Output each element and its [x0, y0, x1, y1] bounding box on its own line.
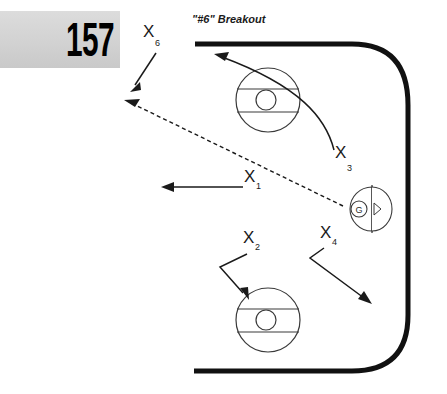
player-x6-letter: X — [143, 22, 154, 41]
player-x1-letter: X — [244, 167, 255, 186]
x4-arrowhead — [358, 291, 372, 304]
pass-arrowhead — [124, 99, 140, 107]
x2-route-line — [220, 254, 247, 293]
player-x4-route — [310, 248, 372, 304]
player-label-x4: X 4 — [320, 223, 337, 247]
player-label-x6: X 6 — [143, 22, 160, 48]
player-x2-route — [220, 254, 249, 300]
faceoff-dot-circle — [256, 310, 276, 330]
pass-line — [131, 103, 343, 206]
player-label-x3: X 3 — [335, 143, 352, 173]
player-x4-subscript: 4 — [332, 237, 337, 247]
player-x2-subscript: 2 — [255, 242, 260, 252]
player-x1-route — [161, 182, 243, 192]
player-label-x2: X 2 — [243, 228, 260, 252]
x1-arrowhead — [161, 182, 174, 192]
player-x2-letter: X — [243, 228, 254, 247]
player-x3-subscript: 3 — [347, 163, 352, 173]
faceoff-circle-bottom — [236, 288, 300, 352]
rink-diagram: G — [0, 0, 447, 394]
pass-dashed-line — [124, 99, 343, 206]
x3-route-curve — [222, 57, 334, 150]
player-label-x1: X 1 — [244, 167, 261, 191]
faceoff-dot-circle — [256, 90, 276, 110]
player-x3-letter: X — [335, 143, 346, 162]
goal-area: G — [350, 185, 392, 233]
goalie-label: G — [355, 205, 362, 215]
x3-arrowhead — [214, 52, 229, 61]
player-x6-subscript: 6 — [155, 38, 160, 48]
drill-diagram-page: 157 "#6" Breakout — [0, 0, 447, 394]
x6-route-line — [135, 53, 156, 85]
player-x6-route — [130, 53, 156, 92]
x4-route-line — [310, 248, 364, 298]
player-x1-subscript: 1 — [256, 181, 261, 191]
player-x4-letter: X — [320, 223, 331, 242]
